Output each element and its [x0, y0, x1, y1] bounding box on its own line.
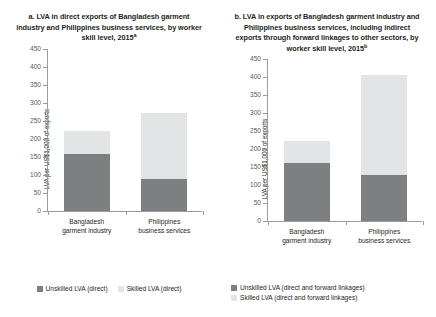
- category-label-line: Bangladesh: [48, 217, 126, 226]
- panel-b-category-labels: Bangladeshgarment industryPhilippinesbus…: [268, 227, 423, 245]
- y-tick-label: 300: [250, 110, 261, 117]
- x-tick-mark: [423, 221, 424, 225]
- y-tick-mark: [263, 95, 267, 96]
- y-tick-label: 450: [250, 56, 261, 63]
- panel-b-title-superscript: b: [364, 42, 367, 48]
- y-tick-label: 100: [250, 182, 261, 189]
- panel-a-x-axis-line: [47, 211, 202, 212]
- y-tick-mark: [263, 185, 267, 186]
- y-tick-mark: [43, 211, 47, 212]
- y-tick-mark: [43, 157, 47, 158]
- category-label: Bangladeshgarment industry: [48, 217, 126, 235]
- y-tick-mark: [263, 203, 267, 204]
- bar-segment[interactable]: [361, 75, 407, 175]
- bar-segment[interactable]: [361, 175, 407, 221]
- y-tick-label: 50: [34, 189, 41, 196]
- y-tick-mark: [43, 49, 47, 50]
- figure-container: a. LVA in direct exports of Bangladesh g…: [0, 0, 436, 317]
- y-tick-label: 450: [30, 45, 41, 52]
- legend-label: Unskilled LVA (direct): [46, 284, 108, 294]
- y-tick-mark: [43, 85, 47, 86]
- category-label-line: Philippines: [126, 217, 204, 226]
- y-tick-mark: [43, 193, 47, 194]
- x-tick-mark: [346, 221, 347, 225]
- y-tick-label: 200: [250, 146, 261, 153]
- y-tick-label: 350: [250, 92, 261, 99]
- bar-segment[interactable]: [64, 154, 110, 211]
- bar-segment[interactable]: [141, 113, 187, 179]
- category-label-line: garment industry: [268, 236, 346, 245]
- category-label-line: business services: [346, 236, 424, 245]
- legend-item[interactable]: Skilled LVA (direct): [118, 284, 182, 294]
- panel-a-legend: Unskilled LVA (direct)Skilled LVA (direc…: [0, 284, 218, 294]
- panel-a-title-text: a. LVA in direct exports of Bangladesh g…: [16, 12, 202, 42]
- x-tick-mark: [203, 211, 204, 215]
- panel-b-plot-area: 050100150200250300350400450: [267, 59, 422, 222]
- panel-a-title: a. LVA in direct exports of Bangladesh g…: [0, 0, 218, 44]
- panel-b-bars: [268, 59, 422, 221]
- panel-a-plot-area: 050100150200250300350400450: [47, 49, 202, 212]
- y-tick-mark: [43, 175, 47, 176]
- category-label-line: business services: [126, 226, 204, 235]
- panel-b-title: b. LVA in exports of Bangladesh garment …: [218, 0, 436, 54]
- y-tick-mark: [43, 67, 47, 68]
- y-tick-label: 150: [250, 164, 261, 171]
- category-label: Philippinesbusiness services: [346, 227, 424, 245]
- y-tick-label: 400: [250, 74, 261, 81]
- panel-a: a. LVA in direct exports of Bangladesh g…: [0, 0, 218, 317]
- panel-b-title-text: b. LVA in exports of Bangladesh garment …: [235, 12, 420, 53]
- category-label-line: garment industry: [48, 226, 126, 235]
- y-tick-label: 250: [30, 117, 41, 124]
- y-tick-label: 200: [30, 135, 41, 142]
- x-tick-mark: [48, 211, 49, 215]
- category-label-line: Bangladesh: [268, 227, 346, 236]
- legend-swatch: [231, 285, 237, 291]
- y-tick-label: 150: [30, 153, 41, 160]
- category-label-line: Philippines: [346, 227, 424, 236]
- y-tick-mark: [263, 59, 267, 60]
- category-label: Bangladeshgarment industry: [268, 227, 346, 245]
- panel-a-category-labels: Bangladeshgarment industryPhilippinesbus…: [48, 217, 203, 235]
- y-tick-label: 100: [30, 171, 41, 178]
- y-tick-mark: [43, 103, 47, 104]
- legend-swatch: [37, 286, 43, 292]
- panel-b-plot: LVA per US$1,000 of exports 050100150200…: [218, 54, 436, 264]
- category-label: Philippinesbusiness services: [126, 217, 204, 235]
- bar-segment[interactable]: [141, 179, 187, 211]
- y-tick-mark: [43, 121, 47, 122]
- y-tick-mark: [263, 221, 267, 222]
- panel-b-legend: Unskilled LVA (direct and forward linkag…: [218, 283, 436, 303]
- bar-segment[interactable]: [284, 141, 330, 163]
- y-tick-mark: [43, 139, 47, 140]
- y-tick-label: 0: [37, 207, 41, 214]
- x-tick-mark: [268, 221, 269, 225]
- panel-a-x-ticks: [48, 210, 203, 211]
- y-tick-label: 50: [254, 200, 261, 207]
- legend-item[interactable]: Unskilled LVA (direct): [37, 284, 108, 294]
- y-tick-label: 350: [30, 81, 41, 88]
- y-tick-mark: [263, 149, 267, 150]
- y-tick-mark: [263, 113, 267, 114]
- y-tick-mark: [263, 131, 267, 132]
- y-tick-label: 250: [250, 128, 261, 135]
- legend-label: Skilled LVA (direct): [127, 284, 182, 294]
- legend-swatch: [231, 295, 237, 301]
- legend-item[interactable]: Unskilled LVA (direct and forward linkag…: [231, 283, 436, 293]
- y-tick-mark: [263, 77, 267, 78]
- panel-b-x-ticks: [268, 220, 423, 221]
- x-tick-mark: [126, 211, 127, 215]
- bar-segment[interactable]: [284, 163, 330, 221]
- panel-a-title-superscript: a: [133, 32, 136, 38]
- y-tick-label: 400: [30, 63, 41, 70]
- legend-label: Skilled LVA (direct and forward linkages…: [240, 293, 357, 303]
- legend-item[interactable]: Skilled LVA (direct and forward linkages…: [231, 293, 436, 303]
- y-tick-label: 300: [30, 99, 41, 106]
- legend-label: Unskilled LVA (direct and forward linkag…: [240, 283, 365, 293]
- panel-b: b. LVA in exports of Bangladesh garment …: [218, 0, 436, 317]
- y-tick-mark: [263, 167, 267, 168]
- legend-swatch: [118, 286, 124, 292]
- panel-a-bars: [48, 49, 202, 211]
- y-tick-label: 0: [257, 218, 261, 225]
- bar-segment[interactable]: [64, 131, 110, 154]
- panel-b-x-axis-line: [267, 221, 422, 222]
